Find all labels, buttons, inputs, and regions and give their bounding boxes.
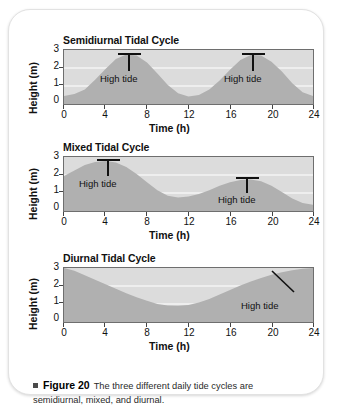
x-tick-20-semidiurnal: 20	[265, 109, 281, 120]
high-tide-label-1-mixed: High tide	[79, 178, 117, 189]
y-tick-3-mixed: 3	[49, 150, 59, 161]
figure-caption: Figure 20The three different daily tide …	[33, 378, 305, 407]
wave-svg-diurnal	[64, 268, 313, 322]
y-axis-label-semidiurnal: Height (m)	[27, 58, 39, 118]
x-tick-12-mixed: 12	[181, 216, 197, 227]
high-tide-label-diurnal: High tide	[241, 300, 279, 311]
x-tick-16-semidiurnal: 16	[223, 109, 239, 120]
x-tick-4-diurnal: 4	[97, 327, 113, 338]
x-tick-16-mixed: 16	[223, 216, 239, 227]
high-tide-label-1-semidiurnal: High tide	[100, 73, 138, 84]
x-tick-12-diurnal: 12	[181, 327, 197, 338]
x-tick-8-diurnal: 8	[139, 327, 155, 338]
y-axis-label-mixed: Height (m)	[27, 164, 39, 224]
plot-area-diurnal: High tide	[63, 267, 314, 323]
x-tick-24-diurnal: 24	[306, 327, 322, 338]
x-tick-8-mixed: 8	[139, 216, 155, 227]
y-tick-2-semidiurnal: 2	[49, 60, 59, 71]
figure-number: Figure 20	[43, 379, 90, 391]
x-tick-20-diurnal: 20	[265, 327, 281, 338]
x-tick-24-semidiurnal: 24	[306, 109, 322, 120]
chart-title-semidiurnal: Semidiurnal Tidal Cycle	[63, 34, 179, 46]
figure-card: Semidiurnal Tidal Cycle Height (m) 3 2 1…	[8, 9, 324, 395]
x-tick-8-semidiurnal: 8	[139, 109, 155, 120]
y-tick-3-semidiurnal: 3	[49, 43, 59, 54]
y-tick-1-mixed: 1	[49, 184, 59, 195]
y-tick-0-semidiurnal: 0	[49, 94, 59, 105]
x-tick-24-mixed: 24	[306, 216, 322, 227]
high-tide-label-2-semidiurnal: High tide	[224, 73, 262, 84]
y-tick-1-semidiurnal: 1	[49, 77, 59, 88]
x-tick-4-semidiurnal: 4	[97, 109, 113, 120]
high-tide-marker-stem-2-mixed	[246, 177, 248, 193]
chart-title-mixed: Mixed Tidal Cycle	[63, 141, 149, 153]
x-tick-0-diurnal: 0	[56, 327, 72, 338]
y-tick-0-diurnal: 0	[49, 312, 59, 323]
x-axis-label-semidiurnal: Time (h)	[149, 122, 190, 134]
x-tick-4-mixed: 4	[97, 216, 113, 227]
high-tide-label-2-mixed: High tide	[218, 194, 256, 205]
x-tick-20-mixed: 20	[265, 216, 281, 227]
chart-title-diurnal: Diurnal Tidal Cycle	[63, 252, 155, 264]
x-axis-label-mixed: Time (h)	[149, 229, 190, 241]
y-tick-2-mixed: 2	[49, 167, 59, 178]
high-tide-marker-stem-1-mixed	[107, 159, 109, 176]
high-tide-marker-stem-1-semidiurnal	[128, 53, 130, 71]
y-tick-0-mixed: 0	[49, 201, 59, 212]
x-axis-label-diurnal: Time (h)	[149, 340, 190, 352]
x-tick-12-semidiurnal: 12	[181, 109, 197, 120]
x-tick-0-mixed: 0	[56, 216, 72, 227]
high-tide-marker-stem-2-semidiurnal	[252, 53, 254, 71]
x-tick-0-semidiurnal: 0	[56, 109, 72, 120]
y-tick-1-diurnal: 1	[49, 295, 59, 306]
x-tick-16-diurnal: 16	[223, 327, 239, 338]
plot-area-semidiurnal: High tide High tide	[63, 49, 314, 105]
y-axis-label-diurnal: Height (m)	[27, 274, 39, 334]
y-tick-2-diurnal: 2	[49, 278, 59, 289]
y-tick-3-diurnal: 3	[49, 261, 59, 272]
square-bullet-icon	[33, 383, 38, 388]
plot-area-mixed: High tide High tide	[63, 156, 314, 212]
